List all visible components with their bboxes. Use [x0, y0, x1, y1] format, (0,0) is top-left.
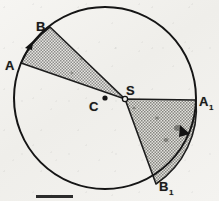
arrow-arc-ab-icon — [25, 41, 33, 50]
label-point-a: A — [5, 59, 14, 72]
center-point-marker — [102, 95, 107, 100]
label-b1-subscript: 1 — [169, 188, 173, 197]
label-b1-base: B — [159, 179, 168, 194]
geometry-diagram-svg — [0, 0, 219, 201]
label-point-b: B — [36, 20, 45, 33]
label-point-a1: A1 — [199, 95, 213, 112]
figure-canvas: A B C S A1 B1 — [0, 0, 219, 201]
scale-bar — [36, 195, 73, 198]
label-center-c: C — [89, 100, 98, 113]
label-point-b1: B1 — [159, 180, 173, 197]
label-point-s: S — [126, 84, 135, 97]
label-a1-subscript: 1 — [209, 103, 213, 112]
label-a1-base: A — [199, 94, 208, 109]
